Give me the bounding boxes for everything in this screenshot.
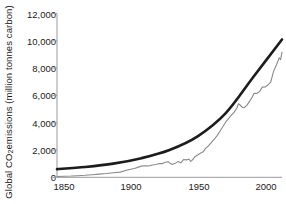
chart-figure: Global CO2 emissions (million tonnes car… [0, 0, 286, 204]
y-tick-marks [53, 14, 58, 178]
plot-area [0, 0, 286, 204]
observed-data-line [57, 52, 282, 176]
axes [53, 14, 283, 178]
